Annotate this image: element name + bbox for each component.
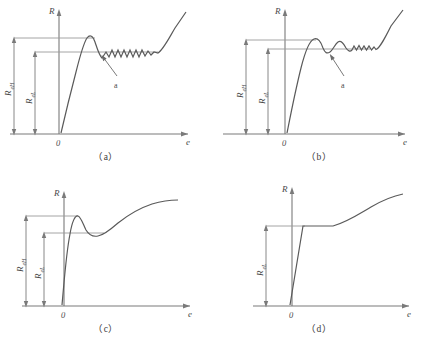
origin-label-d: 0: [289, 310, 294, 320]
svg-text:eH: eH: [21, 258, 27, 266]
svg-text:eL: eL: [263, 91, 269, 98]
annotation-label-b: a: [341, 81, 345, 90]
svg-text:eL: eL: [261, 263, 267, 270]
svg-text:eL: eL: [39, 266, 45, 273]
svg-text:R: R: [33, 273, 43, 280]
x-axis-label-c: e: [188, 309, 192, 319]
svg-text:eH: eH: [241, 84, 247, 92]
stress-strain-curve-b: [287, 10, 403, 133]
upper-yield-label-c: R eH: [15, 258, 27, 273]
panel-caption-b: （b）: [213, 149, 425, 163]
y-axis-b: [283, 9, 288, 134]
svg-text:eH: eH: [9, 82, 15, 90]
x-axis-label-b: e: [403, 137, 407, 147]
lower-yield-label-b: R eL: [257, 91, 269, 105]
panel-c: R e 0 R eH R eL （c）: [0, 172, 212, 344]
y-axis-label-d: R: [281, 184, 288, 194]
x-axis-d: [253, 304, 409, 309]
x-axis-label-d: e: [407, 309, 411, 319]
svg-text:R: R: [15, 266, 25, 273]
annotation-arrow-b: [330, 54, 344, 76]
y-axis-a: [57, 9, 62, 134]
lower-yield-label-c: R eL: [33, 266, 45, 280]
svg-text:R: R: [24, 98, 34, 105]
y-axis-label-b: R: [274, 6, 281, 16]
annotation-label-a: a: [114, 81, 118, 90]
annotation-arrow-a: [102, 55, 118, 76]
lower-yield-dimension-b: [266, 48, 270, 136]
figure-container: a R e 0 R eH R eL （a）: [0, 0, 425, 344]
x-axis-label-a: e: [186, 137, 190, 147]
svg-text:R: R: [235, 92, 245, 99]
panel-caption-c: （c）: [0, 321, 212, 335]
lower-yield-label-a: R eL: [24, 91, 36, 105]
upper-yield-label-b: R eH: [235, 84, 247, 99]
panel-b: a R e 0 R eH R eL （b）: [213, 0, 425, 172]
panel-caption-a: （a）: [0, 149, 212, 163]
panel-a: a R e 0 R eH R eL （a）: [0, 0, 212, 172]
panel-d: R e 0 R eL （d）: [213, 172, 425, 344]
origin-label-b: 0: [282, 138, 287, 148]
svg-text:R: R: [3, 90, 13, 97]
x-axis-a: [10, 132, 188, 137]
stress-strain-curve-d: [290, 194, 403, 305]
svg-text:eL: eL: [30, 91, 36, 98]
y-axis-d: [290, 187, 295, 306]
origin-label-a: 0: [56, 138, 61, 148]
stress-strain-curve-a: [61, 12, 186, 133]
origin-label-c: 0: [61, 310, 66, 320]
stress-strain-curve-c: [62, 200, 178, 305]
x-axis-c: [22, 304, 190, 309]
y-axis-label-c: R: [53, 188, 60, 198]
panel-caption-d: （d）: [213, 321, 425, 335]
y-axis-label-a: R: [48, 6, 55, 16]
lower-yield-label-d: R eL: [255, 263, 267, 277]
upper-yield-label-a: R eH: [3, 82, 15, 97]
x-axis-b: [223, 132, 405, 137]
svg-text:R: R: [257, 98, 267, 105]
svg-text:R: R: [255, 270, 265, 277]
